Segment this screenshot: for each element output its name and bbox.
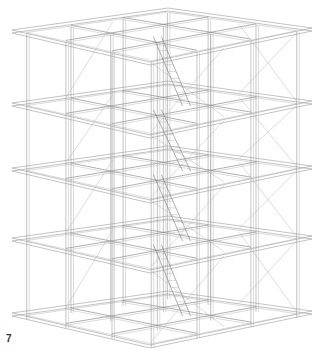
deck-beam — [69, 27, 195, 52]
deck-edge — [168, 8, 312, 28]
deck-edge — [12, 30, 150, 62]
deck-edge — [12, 294, 168, 316]
deck-edge — [150, 311, 312, 345]
deck-beam — [69, 310, 195, 335]
deck-inner-ring — [27, 220, 168, 240]
cross-brace — [66, 160, 113, 233]
deck-inner-ring — [27, 150, 168, 170]
deck-edge — [12, 103, 150, 135]
deck-edge — [12, 11, 168, 33]
deck-inner-ring — [27, 12, 168, 32]
cross-brace — [66, 22, 113, 98]
deck-edge — [12, 219, 168, 241]
cross-brace — [66, 230, 113, 308]
deck-beam — [113, 309, 257, 336]
scaffold-tower-drawing — [0, 0, 326, 349]
deck-edge — [12, 81, 168, 103]
deck-edge — [168, 146, 312, 166]
deck-beam — [113, 99, 257, 126]
deck-edge — [168, 294, 312, 314]
deck-beam — [113, 26, 257, 53]
deck-edge — [168, 291, 312, 311]
deck-edge — [12, 8, 168, 30]
deck-edge — [12, 238, 150, 270]
deck-edge — [12, 84, 168, 106]
deck-edge — [150, 28, 312, 62]
deck-edge — [168, 219, 312, 239]
cross-brace — [66, 95, 113, 163]
deck-edge — [12, 149, 168, 171]
deck-beam — [69, 165, 195, 190]
deck-inner-ring — [167, 85, 296, 104]
deck-beam — [69, 100, 195, 125]
deck-beam — [113, 234, 257, 261]
deck-inner-ring — [167, 220, 296, 239]
deck-edge — [168, 11, 312, 31]
deck-edge — [12, 291, 168, 313]
deck-edge — [150, 101, 312, 135]
deck-edge — [168, 84, 312, 104]
deck-inner-ring — [167, 12, 296, 31]
deck-inner-ring — [27, 295, 168, 315]
cross-brace — [239, 33, 297, 94]
deck-edge — [12, 216, 168, 238]
deck-edge — [168, 216, 312, 236]
deck-beam — [113, 164, 257, 191]
deck-edge — [12, 313, 150, 345]
cross-brace — [239, 241, 297, 304]
figure-number-label: 7 — [6, 334, 12, 344]
deck-inner-ring — [27, 85, 168, 105]
deck-edge — [12, 168, 150, 200]
deck-edge — [150, 166, 312, 200]
deck-edge — [12, 146, 168, 168]
